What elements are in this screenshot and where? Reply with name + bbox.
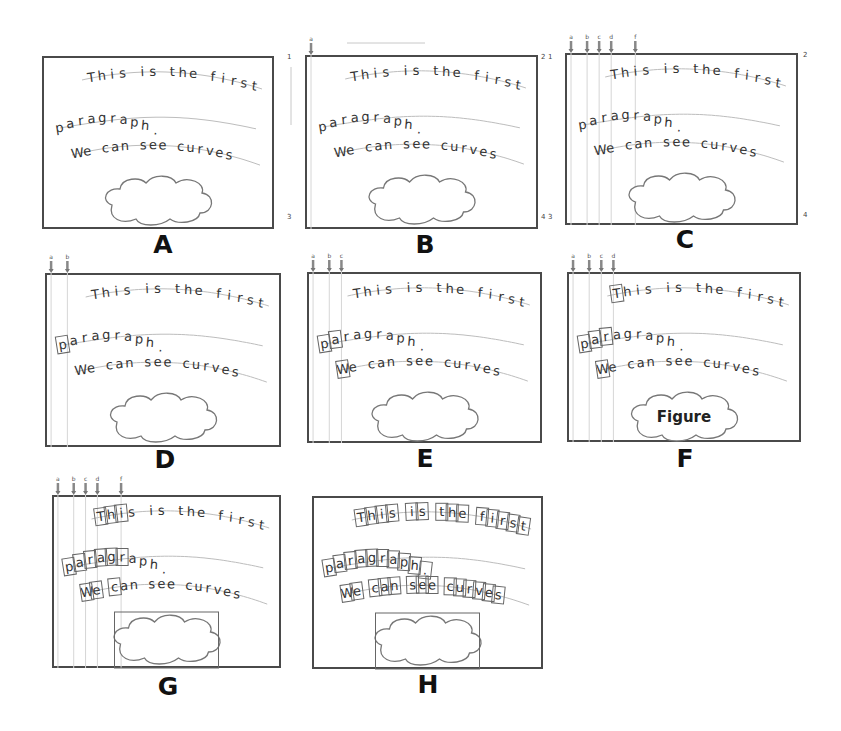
marker-arrow-icon xyxy=(71,483,76,495)
curved-text-char: s xyxy=(154,281,161,296)
curved-text-char: i xyxy=(410,504,414,519)
corner-number: 4 xyxy=(541,213,546,221)
curved-text-char: e xyxy=(458,506,467,521)
curved-text-char: n xyxy=(643,135,652,151)
curved-text-char: i xyxy=(149,503,153,518)
curved-text-char: i xyxy=(747,287,752,302)
curved-text-char: g xyxy=(623,326,632,341)
curved-text-char: i xyxy=(745,68,750,83)
curved-text-char: T xyxy=(89,286,100,302)
curved-text-char: c xyxy=(703,355,710,370)
marker-arrow-icon xyxy=(119,483,124,495)
curved-text-char: a xyxy=(350,110,359,125)
curved-text-char: s xyxy=(406,353,414,368)
marker-arrow-icon xyxy=(95,483,100,495)
curved-text-char: i xyxy=(373,65,378,80)
curved-text-char: s xyxy=(675,280,682,295)
figure-label: Figure xyxy=(657,408,711,426)
marker-arrow-icon xyxy=(311,260,316,272)
marker-arrow-icon xyxy=(633,41,638,53)
curved-text-char: p xyxy=(135,331,144,346)
curved-text-char: v xyxy=(213,582,222,598)
curved-text-char: n xyxy=(383,137,392,153)
corner-number: 1 xyxy=(287,53,291,61)
curved-text-char: e xyxy=(605,140,615,156)
curved-text-char: s xyxy=(665,353,673,368)
panel-label: D xyxy=(145,445,185,474)
curved-text-char: s xyxy=(246,292,255,308)
curved-text-char: a xyxy=(75,554,85,570)
curved-text-char: s xyxy=(415,280,422,295)
cloud-figure-icon xyxy=(372,392,478,441)
curved-text-char: i xyxy=(633,63,638,78)
curved-text-char: s xyxy=(388,505,396,521)
panel-b: a121343Thisisthefirstparagraph.Wecanseec… xyxy=(305,55,538,255)
curved-text-char: e xyxy=(715,282,724,297)
marker-arrow-icon xyxy=(83,483,88,495)
cloud-figure-icon xyxy=(369,175,475,224)
curved-text-char: c xyxy=(701,136,708,151)
curved-text-char: p xyxy=(324,560,335,576)
curved-text-char: p xyxy=(139,553,148,568)
curved-text-char: e xyxy=(739,142,748,158)
curved-text-char: a xyxy=(386,328,394,343)
curved-text-char: g xyxy=(368,550,377,565)
curved-text-char: e xyxy=(675,353,683,368)
curved-text-char: u xyxy=(710,137,719,152)
marker-label: a xyxy=(56,475,60,482)
curved-text-char: e xyxy=(348,359,358,375)
curved-text-char: n xyxy=(120,138,129,154)
curved-text-char: r xyxy=(77,113,84,129)
curved-text-char: e xyxy=(684,353,692,368)
curved-text-char: r xyxy=(236,290,244,306)
curved-text-char: c xyxy=(177,139,184,154)
curved-text-char: c xyxy=(441,138,448,153)
curved-text-char: s xyxy=(144,354,152,369)
marker-arrow-icon xyxy=(587,260,592,272)
curved-text-char: r xyxy=(757,289,765,305)
curved-text-char: . xyxy=(153,122,159,137)
marker-label: d xyxy=(609,33,613,40)
panel-svg: abcThisisthefirstparagraph.Wecanseecurve… xyxy=(307,272,542,443)
curved-text-char: p xyxy=(64,559,75,575)
curved-text-char: r xyxy=(230,73,238,89)
cloud-figure-icon xyxy=(375,616,481,665)
curved-text-char: v xyxy=(473,359,482,375)
curved-text-char: s xyxy=(225,147,233,163)
cloud-figure-icon xyxy=(111,393,217,442)
corner-number: 2 xyxy=(803,51,807,59)
curved-text-char: s xyxy=(492,363,500,379)
curved-text-char: g xyxy=(621,107,630,122)
panel-d: abThisisthefirstparagraph.Wecanseecurves… xyxy=(45,273,281,473)
curved-text-char: f xyxy=(474,68,480,83)
curved-text-char: h xyxy=(705,281,714,296)
marker-arrow-icon xyxy=(49,261,54,273)
curved-text-char: g xyxy=(102,327,111,342)
curved-text-char: h xyxy=(363,284,373,300)
marker-arrow-icon xyxy=(609,41,614,53)
panel-h: Thisisthefirstparagraph.Wecanseecurves H xyxy=(312,496,543,706)
curved-text-char: c xyxy=(627,356,636,372)
panel-svg: Thisisthefirstparagraph.Wecanseecurves xyxy=(42,56,274,229)
curved-text-char: n xyxy=(129,577,138,593)
curved-text-char: c xyxy=(364,139,373,155)
curved-text-char: a xyxy=(634,136,643,152)
curved-text-char: f xyxy=(216,286,222,301)
marker-label: b xyxy=(587,252,591,259)
curved-text-char: t xyxy=(178,503,183,518)
curved-text-char: r xyxy=(461,140,468,155)
curved-text-char: t xyxy=(251,78,258,94)
curved-text-char: e xyxy=(456,282,465,297)
marker-arrow-icon xyxy=(585,41,590,53)
curved-text-char: h xyxy=(404,117,414,133)
corner-number: 1 xyxy=(548,53,552,61)
panel-a: Thisisthefirstparagraph.Wecanseecurves A xyxy=(42,56,274,256)
marker-label: b xyxy=(72,475,76,482)
curved-text-char: a xyxy=(69,332,79,348)
curved-text-char: e xyxy=(154,354,162,369)
curved-text-char: c xyxy=(182,356,189,371)
curved-text-char: e xyxy=(412,136,420,151)
curved-text-char: h xyxy=(97,68,107,84)
panel-label: F xyxy=(665,444,705,473)
curved-text-char: i xyxy=(145,281,149,296)
